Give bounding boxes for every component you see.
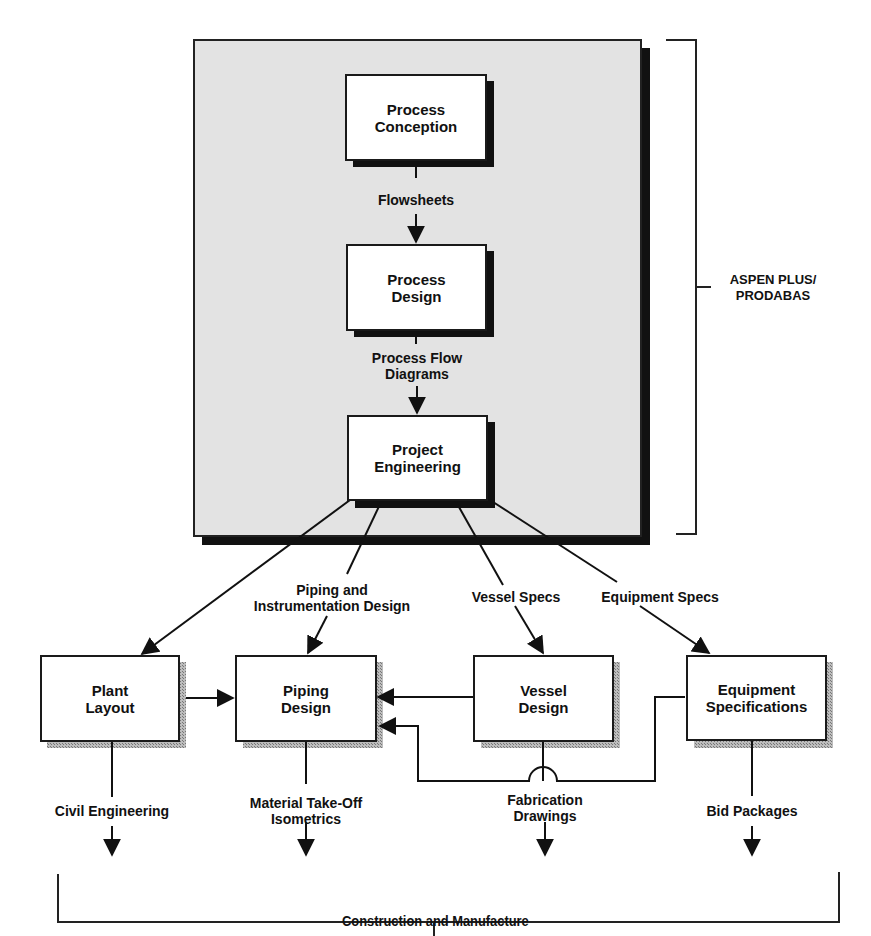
output-label-construction: Construction and Manufacture — [342, 913, 526, 929]
node-project-engineering: Project Engineering — [347, 415, 488, 501]
edge-engineering-to-piping — [308, 616, 327, 653]
group-label-aspen-plus-prodabas: ASPEN PLUS/ PRODABAS — [718, 272, 828, 304]
edge-engineering-to-equipment — [640, 606, 709, 653]
node-label: Process Conception — [375, 101, 458, 135]
node-label: Piping Design — [281, 682, 331, 716]
node-label: Equipment Specifications — [706, 681, 808, 715]
aspen-bracket — [666, 40, 711, 534]
edge-label-pid: Piping and Instrumentation Design — [226, 582, 438, 614]
edge-label-fabrication-drawings: Fabrication Drawings — [490, 792, 600, 824]
node-label: Vessel Design — [518, 682, 568, 716]
edge-label-material-takeoff: Material Take-Off Isometrics — [220, 795, 392, 827]
node-label: Plant Layout — [85, 682, 134, 716]
edge-engineering-to-vessel — [515, 606, 543, 653]
edge-label-bid-packages: Bid Packages — [690, 803, 814, 819]
edge-label-vessel-specs: Vessel Specs — [456, 589, 576, 605]
node-label: Process Design — [387, 271, 445, 305]
node-vessel-design: Vessel Design — [473, 655, 614, 742]
node-process-conception: Process Conception — [345, 74, 487, 161]
edge-label-process-flow-diagrams: Process Flow Diagrams — [346, 350, 488, 382]
edge-label-equipment-specs: Equipment Specs — [592, 589, 728, 605]
edge-label-text: Flowsheets — [378, 192, 454, 208]
node-process-design: Process Design — [346, 244, 487, 331]
node-piping-design: Piping Design — [235, 655, 377, 742]
node-equipment-specifications: Equipment Specifications — [686, 655, 827, 741]
edge-label-flowsheets: Flowsheets — [366, 192, 466, 208]
node-plant-layout: Plant Layout — [40, 655, 180, 742]
edge-label-civil-engineering: Civil Engineering — [32, 803, 192, 819]
node-label: Project Engineering — [374, 441, 461, 475]
